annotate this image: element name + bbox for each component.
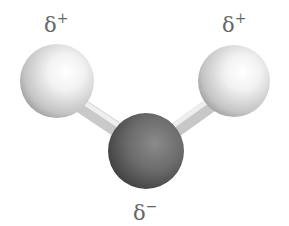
water-molecule-diagram: δ+ δ+ δ− — [0, 0, 289, 226]
oxygen-atom — [108, 113, 184, 189]
partial-positive-label-right: δ+ — [222, 10, 246, 37]
partial-positive-label-left: δ+ — [44, 10, 68, 37]
hydrogen-atom-right — [198, 45, 270, 117]
hydrogen-atom-left — [20, 44, 94, 118]
partial-negative-label: δ− — [133, 198, 157, 225]
